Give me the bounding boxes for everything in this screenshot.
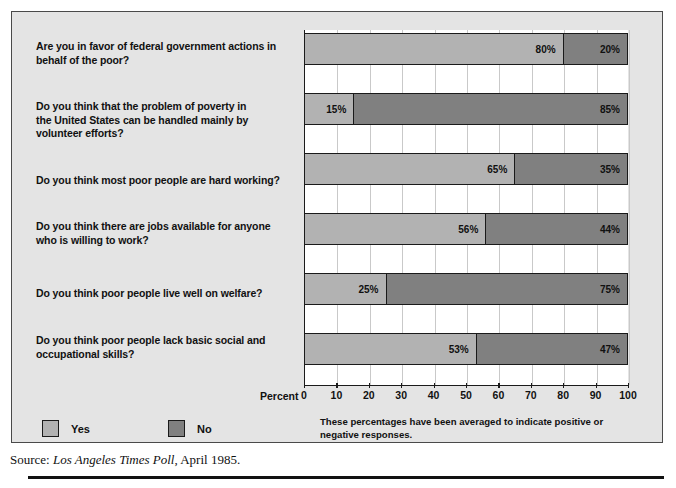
x-axis-tick-label: 20 [363,389,375,401]
question-label-5: Do you think poor people live well on we… [36,287,301,301]
question-line: Are you in favor of federal government a… [36,40,301,54]
figure-panel: Are you in favor of federal government a… [11,11,663,443]
bar-segment-yes[interactable]: 53% [305,334,476,364]
x-axis-tick-label: 90 [590,389,602,401]
chart-note: These percentages have been averaged to … [320,416,620,441]
gridline [435,30,436,385]
x-axis-tick-label: 0 [301,389,307,401]
gridline [629,30,630,385]
bar-value-yes: 65% [487,164,514,175]
bar-value-no: 35% [600,164,627,175]
question-line: who is willing to work? [36,234,301,248]
x-axis-tick-mark [596,383,597,388]
legend-label-no: No [197,423,212,435]
x-axis-tick-mark [401,383,402,388]
bar-segment-no[interactable]: 20% [563,34,627,64]
x-axis-tick-mark [628,383,629,388]
bar-segment-yes[interactable]: 80% [305,34,563,64]
x-axis-caption: Percent [260,390,299,402]
bar-row[interactable]: 65%35% [304,153,628,185]
x-axis-tick-mark [434,383,435,388]
gridline [467,30,468,385]
x-axis-tick-mark [563,383,564,388]
bar-value-no: 85% [600,104,627,115]
bottom-rule [28,476,664,479]
gridline [402,30,403,385]
bar-value-yes: 25% [358,284,385,295]
gridline [532,30,533,385]
legend-label-yes: Yes [71,423,90,435]
x-axis-tick-label: 100 [619,389,637,401]
bar-value-yes: 53% [449,344,476,355]
bar-value-yes: 56% [458,224,485,235]
question-label-1: Are you in favor of federal government a… [36,40,301,67]
gridline [370,30,371,385]
x-axis-tick-label: 40 [428,389,440,401]
x-axis-tick-label: 80 [557,389,569,401]
source-line: Source: Los Angeles Times Poll, April 19… [10,452,240,468]
bar-segment-no[interactable]: 85% [353,94,627,124]
question-label-column: Are you in favor of federal government a… [36,22,301,387]
x-axis-tick-mark [336,383,337,388]
bar-row[interactable]: 80%20% [304,33,628,65]
chart-note-line: These percentages have been averaged to … [320,416,620,429]
bar-value-no: 44% [600,224,627,235]
gridline [564,30,565,385]
bar-segment-no[interactable]: 44% [485,214,627,244]
x-axis-tick-label: 30 [395,389,407,401]
question-line: Do you think that the problem of poverty… [36,100,301,114]
x-axis-tick-mark [466,383,467,388]
bar-segment-yes[interactable]: 56% [305,214,485,244]
bar-value-no: 75% [600,284,627,295]
legend-swatch-no-icon [168,420,185,437]
x-axis-tick-label: 60 [493,389,505,401]
x-axis-tick-mark [369,383,370,388]
question-line: Do you think poor people lack basic soci… [36,334,301,348]
bar-segment-no[interactable]: 47% [476,334,627,364]
bar-value-no: 47% [600,344,627,355]
question-line: Do you think most poor people are hard w… [36,174,301,188]
x-axis-tick-label: 10 [331,389,343,401]
x-axis-tick-mark [304,383,305,388]
question-label-6: Do you think poor people lack basic soci… [36,334,301,361]
x-axis-tick-mark [498,383,499,388]
chart-note-line: negative responses. [320,429,620,442]
source-prefix: Source: [10,452,53,467]
legend-swatch-yes-icon [42,420,59,437]
question-label-2: Do you think that the problem of poverty… [36,100,301,141]
question-line: Do you think there are jobs available fo… [36,220,301,234]
bar-row[interactable]: 15%85% [304,93,628,125]
bar-segment-yes[interactable]: 25% [305,274,386,304]
question-label-3: Do you think most poor people are hard w… [36,174,301,188]
gridline [597,30,598,385]
gridline [337,30,338,385]
gridline [499,30,500,385]
bar-value-no: 20% [600,44,627,55]
bar-segment-yes[interactable]: 15% [305,94,353,124]
bar-row[interactable]: 56%44% [304,213,628,245]
bar-segment-no[interactable]: 75% [386,274,628,304]
question-line: Do you think poor people live well on we… [36,287,301,301]
question-line: volunteer efforts? [36,127,301,141]
bar-row[interactable]: 25%75% [304,273,628,305]
legend-item-yes: Yes [42,420,90,437]
bar-segment-yes[interactable]: 65% [305,154,514,184]
chart-legend: Yes No [42,420,290,437]
question-line: behalf of the poor? [36,54,301,68]
source-publication: Los Angeles Times Poll [53,452,174,467]
bar-segment-no[interactable]: 35% [514,154,627,184]
x-axis: Percent 0102030405060708090100 [260,388,670,404]
legend-item-no: No [168,420,212,437]
question-line: the United States can be handled mainly … [36,114,301,128]
question-line: occupational skills? [36,348,301,362]
x-axis-tick-label: 50 [460,389,472,401]
x-axis-tick-mark [531,383,532,388]
bar-value-yes: 15% [326,104,353,115]
chart-plot-area: 80%20%15%85%65%35%56%44%25%75%53%47% [304,30,629,387]
bar-value-yes: 80% [536,44,563,55]
bar-row[interactable]: 53%47% [304,333,628,365]
source-suffix: , April 1985. [174,452,240,467]
question-label-4: Do you think there are jobs available fo… [36,220,301,247]
x-axis-tick-label: 70 [525,389,537,401]
